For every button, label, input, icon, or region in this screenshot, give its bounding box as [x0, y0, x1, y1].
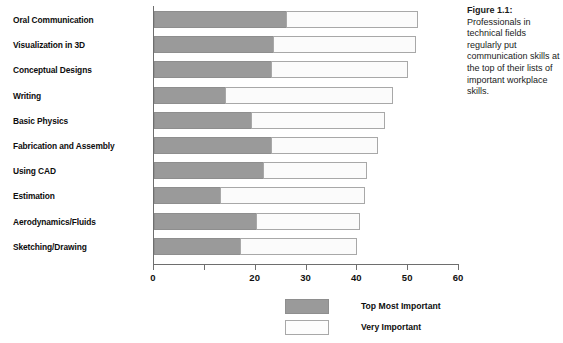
x-axis-tick-label: 50: [402, 272, 413, 283]
figure-container: Oral CommunicationVisualization in 3DCon…: [0, 0, 563, 343]
bar-row: [154, 87, 393, 104]
figure-caption-body: Professionals in technical fields regula…: [467, 17, 561, 98]
x-axis-tick-mark: [356, 265, 357, 270]
bar-segment-very-important: [286, 11, 418, 28]
x-axis-tick-label: 30: [300, 272, 311, 283]
bar-row: [154, 36, 416, 53]
bar-segment-top-most-important: [154, 213, 256, 230]
bar-segment-very-important: [256, 213, 360, 230]
bar-segment-very-important: [273, 36, 415, 53]
legend-label: Very Important: [361, 322, 421, 332]
bar-row: [154, 112, 385, 129]
bar-segment-top-most-important: [154, 112, 251, 129]
bar-segment-very-important: [271, 137, 378, 154]
category-label: Aerodynamics/Fluids: [13, 217, 153, 227]
x-axis-tick-mark: [255, 265, 256, 270]
legend-swatch: [285, 320, 329, 335]
figure-caption: Figure 1.1: Professionals in technical f…: [467, 5, 561, 98]
category-label: Estimation: [13, 191, 153, 201]
x-axis-tick-mark: [153, 265, 154, 270]
bar-segment-top-most-important: [154, 187, 220, 204]
bar-segment-top-most-important: [154, 11, 286, 28]
category-label: Conceptual Designs: [13, 65, 153, 75]
bar-row: [154, 162, 368, 179]
category-label: Oral Communication: [13, 15, 153, 25]
bar-segment-very-important: [263, 162, 367, 179]
x-axis-tick-mark: [458, 265, 459, 270]
legend-swatch: [285, 299, 329, 314]
bar-row: [154, 61, 408, 78]
bar-row: [154, 238, 357, 255]
bar-segment-very-important: [271, 61, 408, 78]
legend-entry: Very Important: [285, 320, 515, 336]
category-label: Basic Physics: [13, 116, 153, 126]
bar-segment-top-most-important: [154, 36, 273, 53]
category-label-column: Oral CommunicationVisualization in 3DCon…: [0, 0, 148, 268]
x-axis-tick-label: 0: [150, 272, 155, 283]
bar-segment-very-important: [220, 187, 365, 204]
bar-segment-very-important: [240, 238, 357, 255]
x-axis-tick-mark: [306, 265, 307, 270]
bar-segment-top-most-important: [154, 162, 263, 179]
bar-row: [154, 11, 418, 28]
bar-row: [154, 187, 365, 204]
category-label: Writing: [13, 91, 153, 101]
category-label: Fabrication and Assembly: [13, 141, 153, 151]
bar-row: [154, 137, 378, 154]
bar-segment-top-most-important: [154, 61, 271, 78]
legend-entry: Top Most Important: [285, 299, 515, 315]
x-axis-tick-label: 20: [249, 272, 260, 283]
bar-segment-top-most-important: [154, 238, 240, 255]
chart-legend: Top Most ImportantVery Important: [285, 299, 515, 339]
bar-segment-top-most-important: [154, 87, 225, 104]
chart-plot-area: 02030405060: [153, 6, 459, 265]
x-axis-tick-mark: [407, 265, 408, 270]
bar-segment-top-most-important: [154, 137, 271, 154]
figure-caption-title: Figure 1.1:: [467, 5, 561, 17]
category-label: Visualization in 3D: [13, 40, 153, 50]
bar-row: [154, 213, 360, 230]
bar-segment-very-important: [225, 87, 393, 104]
category-label: Using CAD: [13, 166, 153, 176]
legend-label: Top Most Important: [361, 301, 441, 311]
x-axis-tick-mark: [204, 265, 205, 270]
category-label: Sketching/Drawing: [13, 242, 153, 252]
bar-segment-very-important: [251, 112, 386, 129]
x-axis-tick-label: 40: [351, 272, 362, 283]
x-axis-tick-label: 60: [453, 272, 464, 283]
